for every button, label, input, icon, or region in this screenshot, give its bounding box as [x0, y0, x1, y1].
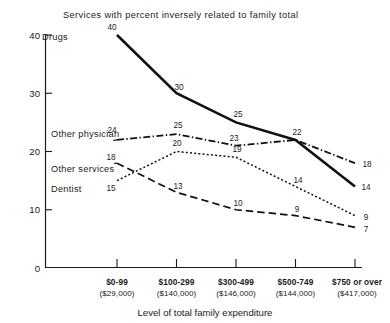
- point-label-dentist-4: 7: [364, 225, 369, 234]
- x-category-sublabel-0: ($29,000): [99, 289, 134, 298]
- point-label-dentist-3: 9: [295, 205, 300, 214]
- x-category-sublabel-1: ($140,000): [157, 289, 197, 298]
- y-tick-label-20: 20: [29, 146, 40, 157]
- series-label-dentist: Dentist: [51, 184, 82, 194]
- point-label-other-physician-2: 23: [229, 134, 239, 143]
- x-category-label-4: $750 or over: [332, 277, 383, 287]
- point-label-other-services-1: 20: [172, 139, 182, 148]
- series-label-other-services: Other services: [51, 164, 115, 174]
- x-category-label-0: $0-99: [106, 277, 128, 287]
- point-label-drugs-2: 25: [233, 110, 243, 119]
- x-axis-caption: Level of total family expenditure: [138, 307, 273, 318]
- point-label-other-physician-1: 25: [173, 121, 183, 130]
- x-category-label-2: $300-499: [218, 277, 254, 287]
- point-label-other-services-0: 15: [106, 184, 116, 193]
- series-label-drugs: Drugs: [42, 32, 68, 42]
- point-label-other-services-3: 14: [293, 176, 303, 185]
- point-label-other-physician-0: 24: [107, 126, 117, 135]
- x-category-sublabel-4: ($417,000): [337, 289, 377, 298]
- point-label-dentist-1: 13: [173, 182, 183, 191]
- x-category-label-3: $500-749: [278, 277, 314, 287]
- chart-title: Services with percent inversely related …: [63, 10, 298, 20]
- leader-other-physician: [113, 140, 117, 141]
- y-tick-label-40: 40: [29, 30, 40, 41]
- x-category-label-1: $100-299: [159, 277, 195, 287]
- point-label-drugs-4: 14: [361, 183, 371, 192]
- x-category-sublabel-2: ($146,000): [216, 289, 256, 298]
- y-tick-label-30: 30: [29, 88, 40, 99]
- y-tick-label-0: 0: [35, 263, 40, 274]
- point-label-other-services-4: 9: [364, 213, 369, 222]
- x-category-sublabel-3: ($144,000): [276, 289, 316, 298]
- line-chart-svg: Services with percent inversely related …: [0, 0, 390, 323]
- y-tick-label-10: 10: [29, 204, 40, 215]
- point-label-dentist-2: 10: [233, 199, 243, 208]
- point-label-drugs-1: 30: [174, 83, 184, 92]
- point-label-other-services-2: 19: [232, 145, 242, 154]
- series-line-dentist: [117, 163, 355, 227]
- point-label-drugs-0: 40: [107, 23, 117, 32]
- point-label-other-physician-4: 18: [362, 160, 372, 169]
- point-label-dentist-0: 18: [106, 153, 116, 162]
- chart-container: Services with percent inversely related …: [0, 0, 390, 323]
